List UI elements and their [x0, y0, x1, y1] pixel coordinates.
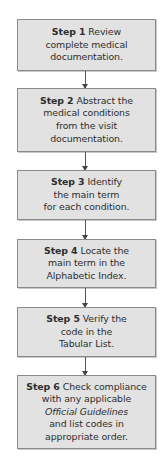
step-6-box: Step 6 Check compliance with any applica…: [17, 375, 156, 449]
step-1-line-3: documentation.: [50, 51, 123, 62]
step-4-text: Step 4 Locate the main term in the Alpha…: [41, 245, 132, 283]
step-5-label: Step 5: [46, 313, 80, 324]
step-4-label: Step 4: [44, 245, 78, 256]
step-6-line-2: with any applicable: [42, 393, 131, 404]
step-3-text: Step 3 Identify the main term for each c…: [41, 176, 133, 214]
step-2-line-4: documentation.: [50, 133, 123, 144]
step-3-label: Step 3: [51, 176, 85, 187]
step-2-line-2: medical conditions: [43, 107, 129, 118]
step-6-text: Step 6 Check compliance with any applica…: [23, 381, 149, 444]
step-2-label: Step 2: [40, 95, 74, 106]
step-3-box: Step 3 Identify the main term for each c…: [17, 170, 156, 220]
step-1-line-2: complete medical: [45, 39, 127, 50]
step-5-box: Step 5 Verify the code in the Tabular Li…: [17, 307, 156, 357]
step-2-line-1: Abstract the: [76, 95, 133, 106]
step-6-line-4: and list codes in: [49, 418, 124, 429]
connector-5-6: [85, 357, 86, 375]
step-4-line-3: Alphabetic Index.: [47, 270, 127, 281]
step-5-line-3: Tabular List.: [59, 338, 114, 349]
step-1-line-1: Review: [88, 26, 121, 37]
step-1-label: Step 1: [52, 26, 86, 37]
step-6-line-3-italic: Official Guidelines: [45, 406, 128, 417]
step-2-text: Step 2 Abstract the medical conditions f…: [37, 95, 136, 145]
step-6-line-5: appropriate order.: [45, 431, 128, 442]
step-3-line-2: the main term: [54, 189, 120, 200]
step-1-text: Step 1 Review complete medical documenta…: [42, 26, 130, 64]
step-6-label: Step 6: [26, 381, 60, 392]
step-4-box: Step 4 Locate the main term in the Alpha…: [17, 239, 156, 288]
step-5-line-2: code in the: [61, 326, 112, 337]
connector-2-3: [85, 152, 86, 170]
connector-1-2: [85, 71, 86, 88]
step-6-line-1: Check compliance: [63, 381, 147, 392]
step-5-line-1: Verify the: [83, 313, 127, 324]
step-3-line-1: Identify: [87, 176, 122, 187]
step-4-line-1: Locate the: [80, 245, 129, 256]
step-2-box: Step 2 Abstract the medical conditions f…: [17, 88, 156, 152]
connector-4-5: [85, 288, 86, 307]
step-1-box: Step 1 Review complete medical documenta…: [17, 19, 156, 71]
step-2-line-3: from the visit: [56, 120, 117, 131]
step-5-text: Step 5 Verify the code in the Tabular Li…: [43, 313, 129, 351]
step-3-line-3: for each condition.: [44, 201, 130, 212]
connector-3-4: [85, 220, 86, 239]
step-4-line-2: main term in the: [48, 257, 125, 268]
